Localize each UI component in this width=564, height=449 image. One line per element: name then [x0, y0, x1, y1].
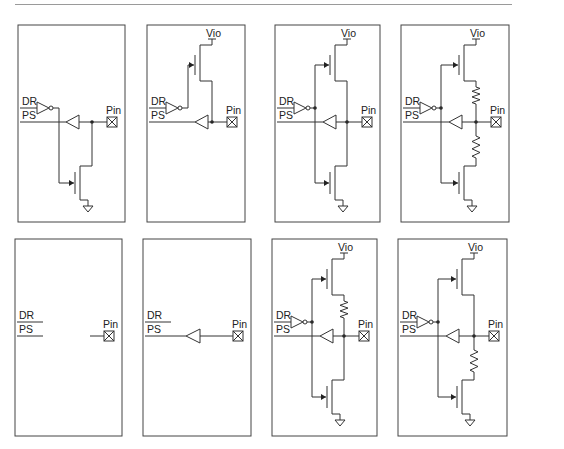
- circuit-panel-a: DRPSPin: [18, 25, 125, 222]
- vio-label: Vio: [206, 27, 221, 39]
- pin-label: Pin: [106, 104, 121, 116]
- ps-label: PS: [147, 323, 161, 335]
- pin-pad-icon: [233, 331, 243, 341]
- pin-pad-icon: [491, 117, 501, 127]
- circuit-panel-f: DRPSPin: [143, 239, 251, 436]
- circuit-panel-b: DRPSPinVio: [147, 25, 245, 222]
- circuit-panel-h: DRPSPinVio: [398, 239, 507, 436]
- ps-label: PS: [22, 109, 36, 121]
- ps-label: PS: [19, 323, 33, 335]
- pin-label: Pin: [361, 104, 376, 116]
- pin-pad-icon: [489, 331, 499, 341]
- vio-label: Vio: [468, 241, 483, 253]
- ps-label: PS: [151, 109, 165, 121]
- pin-pad-icon: [362, 117, 372, 127]
- pin-label: Pin: [358, 318, 373, 330]
- circuit-panel-g: DRPSPinVio: [272, 239, 377, 436]
- dr-label: DR: [19, 309, 35, 321]
- pin-label: Pin: [490, 104, 505, 116]
- pin-label: Pin: [232, 318, 247, 330]
- dr-label: DR: [279, 95, 295, 107]
- ps-label: PS: [279, 109, 293, 121]
- inverter-bubble-icon: [303, 320, 307, 324]
- dr-label: DR: [22, 95, 38, 107]
- dr-label: DR: [151, 95, 167, 107]
- vio-label: Vio: [470, 27, 485, 39]
- dr-label: DR: [405, 95, 421, 107]
- circuit-panel-c: DRPSPinVio: [275, 25, 380, 222]
- pin-label: Pin: [103, 318, 118, 330]
- dr-label: DR: [276, 309, 292, 321]
- pin-pad-icon: [227, 117, 237, 127]
- pin-pad-icon: [104, 331, 114, 341]
- vio-label: Vio: [341, 27, 356, 39]
- dr-label: DR: [147, 309, 163, 321]
- circuit-panel-d: DRPSPinVio: [401, 25, 509, 222]
- ps-label: PS: [276, 323, 290, 335]
- io-pad-configurations-diagram: DRPSPinDRPSPinVioDRPSPinVioDRPSPinVioDRP…: [0, 0, 564, 449]
- ps-label: PS: [402, 323, 416, 335]
- pin-label: Pin: [488, 318, 503, 330]
- inverter-bubble-icon: [429, 320, 433, 324]
- inverter-bubble-icon: [432, 106, 436, 110]
- inverter-bubble-icon: [49, 106, 53, 110]
- ps-label: PS: [405, 109, 419, 121]
- pin-pad-icon: [359, 331, 369, 341]
- pin-pad-icon: [107, 117, 117, 127]
- inverter-bubble-icon: [306, 106, 310, 110]
- vio-label: Vio: [338, 241, 353, 253]
- circuit-panel-e: DRPSPin: [15, 239, 122, 436]
- dr-label: DR: [402, 309, 418, 321]
- pin-label: Pin: [226, 104, 241, 116]
- inverter-bubble-icon: [178, 106, 182, 110]
